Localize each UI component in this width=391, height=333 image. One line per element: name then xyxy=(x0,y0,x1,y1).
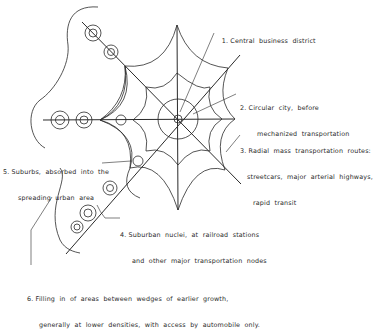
label-5-suburbs: 5. Suburbs, absorbed into the spreading … xyxy=(3,151,109,220)
label-5-line1: 5. Suburbs, absorbed into the xyxy=(3,168,109,177)
label-4-suburban-nuclei: 4. Suburban nuclei, at railroad stations… xyxy=(120,214,267,283)
label-6-filling-in: 6. Filling in of areas between wedges of… xyxy=(27,278,260,333)
label-4-line2: and other major transportation nodes xyxy=(120,257,267,266)
label-1-central-business-district: 1. Central business district xyxy=(213,28,316,54)
label-3-line3: rapid transit xyxy=(240,199,373,208)
label-4-line1: 4. Suburban nuclei, at railroad stations xyxy=(120,231,267,240)
label-1-line1: 1. Central business district xyxy=(222,37,316,45)
label-3-line1: 3. Radial mass transportation routes: xyxy=(240,147,373,156)
label-3-radial-routes: 3. Radial mass transportation routes: st… xyxy=(240,130,373,225)
label-6-line2: generally at lower densities, with acces… xyxy=(27,321,260,330)
label-2-line1: 2. Circular city, before xyxy=(240,104,349,113)
label-5-line2: spreading urban area xyxy=(3,194,109,203)
label-6-line1: 6. Filling in of areas between wedges of… xyxy=(27,295,260,304)
label-3-line2: streetcars, major arterial highways, xyxy=(240,173,373,182)
